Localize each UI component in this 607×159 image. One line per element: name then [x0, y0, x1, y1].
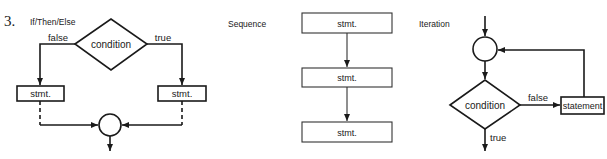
sequence-stmt-label-2: stmt.: [337, 73, 357, 83]
condition-label: condition: [91, 39, 131, 50]
iteration-condition-label: condition: [465, 100, 505, 111]
merge-connector-circle: [99, 114, 121, 136]
loop-connector-circle: [473, 37, 497, 61]
iteration-false-label: false: [528, 92, 548, 103]
left-stmt-label: stmt.: [30, 88, 51, 99]
iteration-title: Iteration: [419, 19, 450, 29]
true-branch-arrow: [147, 44, 182, 85]
sequence-title: Sequence: [228, 19, 267, 29]
if-then-else-diagram: If/Then/Else condition false true stmt. …: [17, 17, 206, 151]
false-branch-arrow: [40, 44, 75, 85]
right-stmt-label: stmt.: [172, 88, 193, 99]
iteration-true-label: true: [490, 132, 506, 143]
iteration-diagram: Iteration condition false statement true: [419, 16, 604, 151]
statement-label: statement: [563, 101, 603, 111]
if-then-else-title: If/Then/Else: [30, 17, 76, 27]
control-structures-diagram: 3. If/Then/Else condition false true stm…: [0, 0, 607, 159]
loop-back-arrow: [498, 50, 584, 97]
sequence-stmt-label-3: stmt.: [337, 128, 357, 138]
item-number: 3.: [4, 13, 15, 29]
sequence-stmt-label-1: stmt.: [337, 19, 357, 29]
false-label: false: [48, 32, 68, 43]
true-label: true: [155, 32, 171, 43]
sequence-diagram: Sequence stmt. stmt. stmt.: [228, 13, 392, 142]
